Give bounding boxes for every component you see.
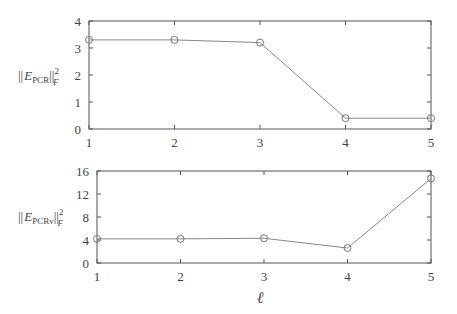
- y-tick-label: 8: [83, 210, 90, 225]
- x-tick-label: 4: [344, 269, 351, 284]
- top-panel-pcr: 1234501234||EPCR||2F: [18, 14, 435, 150]
- y-tick-label: 16: [76, 164, 90, 179]
- x-tick-label: 3: [261, 269, 268, 284]
- x-tick-label: 5: [428, 269, 435, 284]
- y-tick-label: 12: [76, 187, 89, 202]
- y-axis-label: ||EPCR||2F: [18, 66, 59, 87]
- x-tick-label: 1: [86, 135, 93, 150]
- y-tick-label: 2: [75, 68, 82, 83]
- y-axis-label: ||EPCRv||2F: [18, 207, 63, 228]
- y-tick-label: 1: [75, 95, 82, 110]
- series-line: [97, 178, 431, 248]
- x-tick-label: 2: [177, 269, 184, 284]
- x-tick-label: 4: [342, 135, 349, 150]
- x-tick-label: 3: [257, 135, 264, 150]
- x-axis-label: ℓ: [257, 289, 264, 306]
- series-line: [89, 40, 431, 118]
- plot-frame: [89, 21, 431, 129]
- x-tick-label: 1: [94, 269, 101, 284]
- plot-frame: [97, 171, 431, 263]
- bottom-panel-pcrv: 123450481216||EPCRv||2Fℓ: [18, 164, 435, 306]
- y-tick-label: 4: [83, 233, 90, 248]
- y-tick-label: 0: [83, 256, 90, 271]
- y-tick-label: 4: [75, 14, 82, 29]
- y-tick-label: 3: [75, 41, 82, 56]
- x-tick-label: 2: [171, 135, 178, 150]
- y-tick-label: 0: [75, 122, 82, 137]
- x-tick-label: 5: [428, 135, 435, 150]
- chart-figure: 1234501234||EPCR||2F 123450481216||EPCRv…: [0, 0, 457, 314]
